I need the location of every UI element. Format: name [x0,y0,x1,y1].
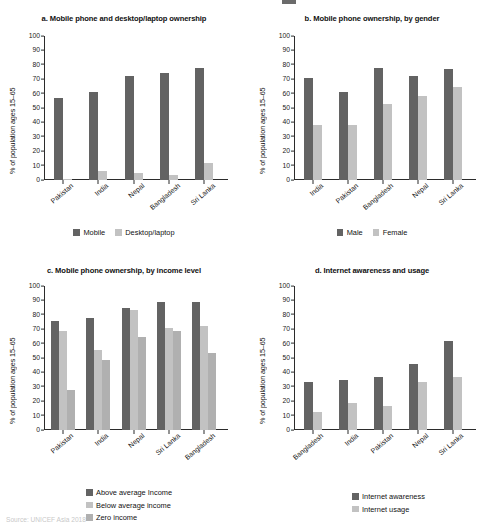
legend-item: Internet usage [352,505,409,514]
y-tick-label: 30 [18,383,40,390]
bar-group [151,36,186,180]
bar-group [116,36,151,180]
y-tick-label: 90 [18,297,40,304]
bar [200,326,208,430]
panel-c-plot-area: 1009080706050403020100 [44,286,222,430]
legend-label: Above average Income [96,488,172,497]
y-tick-label: 100 [18,283,40,290]
panel-a-mobile-desktop-ownership: a. Mobile phone and desktop/laptop owner… [0,0,248,260]
y-tick-label: 0 [18,177,40,184]
bar-group [295,286,330,430]
bar [409,76,418,180]
bar-group [400,36,435,180]
y-tick-mark [41,179,45,180]
x-tick-label: Bangladesh [184,432,217,461]
y-tick-mark [291,415,295,416]
legend-label: Internet usage [362,505,409,514]
y-tick-mark [41,285,45,286]
x-tick-label: Pakistan [49,432,74,455]
y-tick-label: 70 [18,326,40,333]
x-tick-label: Pakistan [369,432,394,455]
legend-swatch-icon [86,514,93,521]
x-tick-label: Bangladesh [291,432,324,461]
y-tick-mark [291,50,295,51]
legend-swatch-icon [352,506,359,513]
bar [374,377,383,430]
legend-swatch-icon [352,493,359,500]
bar [374,68,383,180]
bar [125,76,134,180]
y-tick-label: 90 [18,47,40,54]
panel-b-title: b. Mobile phone ownership, by gender [248,14,496,23]
legend-item: Internet awareness [352,492,425,501]
y-tick-label: 70 [268,326,290,333]
y-tick-mark [291,400,295,401]
y-tick-label: 10 [268,162,290,169]
bar [157,302,165,430]
y-tick-mark [41,136,45,137]
panel-a-bar-groups [45,36,222,180]
y-tick-label: 30 [268,383,290,390]
panel-a-plot-area: 1009080706050403020100 [44,36,222,180]
bar [383,104,392,180]
y-tick-label: 0 [268,427,290,434]
legend-swatch-icon [73,229,80,236]
y-tick-mark [291,314,295,315]
bar [313,125,322,180]
legend-swatch-icon [86,489,93,496]
panel-b-x-tick-labels: IndiaPakistanBangladeshNepalSri Lanka [294,182,470,228]
bar-group [80,36,115,180]
y-tick-mark [291,343,295,344]
y-tick-mark [41,122,45,123]
figure-panel-grid: a. Mobile phone and desktop/laptop owner… [0,0,496,523]
bar [98,171,107,180]
panel-b-ownership-by-gender: b. Mobile phone ownership, by gender % o… [248,0,496,260]
bar-group [330,286,365,430]
x-tick-label: Sri Lanka [190,182,217,206]
y-tick-label: 60 [18,90,40,97]
legend-label: Zero income [96,513,137,522]
x-tick-label: Sri Lanka [438,432,465,456]
y-tick-mark [41,314,45,315]
legend-item: Desktop/laptop [115,228,174,237]
panel-b-plot-area: 1009080706050403020100 [294,36,470,180]
y-tick-mark [291,285,295,286]
bar [444,341,453,430]
panel-d-title: d. Internet awareness and usage [248,266,496,275]
y-tick-label: 70 [268,76,290,83]
y-tick-label: 80 [268,311,290,318]
y-tick-label: 60 [268,340,290,347]
bar [138,337,146,430]
bar-group [295,36,330,180]
x-tick-label: Nepal [127,182,146,199]
legend-item: Zero income [86,513,137,522]
bar-group [330,36,365,180]
bar [51,321,59,430]
y-tick-label: 10 [18,412,40,419]
source-note: Source: UNICEF Asia 2018 [6,516,86,523]
bar [94,350,102,430]
y-tick-label: 60 [268,90,290,97]
panel-d-plot-area: 1009080706050403020100 [294,286,470,430]
bar [160,73,169,180]
y-tick-label: 50 [18,105,40,112]
y-tick-mark [41,415,45,416]
y-tick-label: 0 [18,427,40,434]
bar [453,87,462,180]
panel-a-title: a. Mobile phone and desktop/laptop owner… [0,14,248,23]
bar [409,364,418,430]
x-tick-label: Sri Lanka [438,182,465,206]
y-tick-label: 90 [268,297,290,304]
y-tick-mark [41,400,45,401]
y-tick-mark [41,64,45,65]
legend-swatch-icon [337,229,344,236]
y-tick-mark [291,300,295,301]
y-tick-label: 40 [268,119,290,126]
legend-swatch-icon [86,502,93,509]
y-tick-mark [41,78,45,79]
panel-c-y-axis-label: % of population ages 15–65 [8,296,17,424]
bar [444,69,453,180]
bar-group [45,286,80,430]
x-tick-label: Pakistan [49,182,74,205]
legend-swatch-icon [373,229,380,236]
